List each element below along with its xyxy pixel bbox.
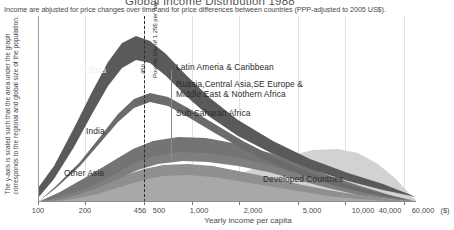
y-axis-line — [38, 16, 39, 202]
x-tick — [144, 202, 145, 205]
x-axis-title: Yearly income per capita — [38, 216, 454, 225]
y-axis-caption: The y-axis is scaled such that the area … — [4, 0, 21, 194]
x-tick — [85, 202, 86, 205]
x-tick-label: 200 — [79, 206, 91, 215]
plot-area: 456 Poverty line of 1.25$ per day China … — [38, 16, 416, 202]
poverty-line-label: Poverty line of 1.25$ per day — [152, 2, 158, 78]
x-tick — [345, 202, 346, 205]
poverty-line — [144, 16, 145, 202]
x-axis-unit: ($) — [440, 206, 449, 215]
label-russia-line1: Russia,Central Asia,SE Europe & — [176, 79, 303, 89]
x-tick — [192, 202, 193, 205]
label-latin-america: Latin Ameria & Caribbean — [176, 62, 274, 72]
poverty-value-label: 456 — [140, 64, 146, 74]
chart-subtitle: Income are abjusted for price changes ov… — [4, 5, 418, 14]
x-tick-label: 10,000 — [352, 206, 375, 215]
label-india: India — [86, 126, 105, 136]
x-tick-label: 60,000 — [412, 206, 435, 215]
x-tick-label: 100 — [32, 206, 44, 215]
x-tick-label: 5,000 — [303, 206, 322, 215]
x-tick-label: 456 — [134, 206, 146, 215]
x-tick — [298, 202, 299, 205]
label-russia-line2: Middle East & Nothern Africa — [176, 89, 286, 99]
label-other-asia: Other Asia — [64, 168, 104, 178]
x-axis: 100 200 456 500 1,000 2,000 5,000 10,000… — [38, 202, 416, 228]
x-tick-label: 2,000 — [244, 206, 263, 215]
label-china: China — [84, 65, 106, 75]
x-tick-label: 1,000 — [190, 206, 209, 215]
x-tick — [404, 202, 405, 205]
x-tick — [38, 202, 39, 205]
label-developed-countries: Developed Countries — [263, 174, 343, 184]
leader-sub-saharan — [171, 116, 172, 160]
label-russia-central-asia: Russia,Central Asia,SE Europe & Middle E… — [176, 80, 303, 99]
x-tick-label: 500 — [153, 206, 165, 215]
x-tick-label: 40,000 — [379, 206, 402, 215]
label-sub-saharan-africa: Sub-Saharan Africa — [176, 108, 250, 118]
x-tick — [239, 202, 240, 205]
